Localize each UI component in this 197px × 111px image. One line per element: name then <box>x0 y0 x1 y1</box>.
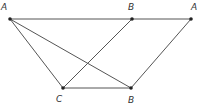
segment-B_bottom-A_prime <box>131 19 191 88</box>
segment-C-B_top <box>63 19 132 88</box>
segment-A-C <box>10 19 63 88</box>
geometry-diagram: ABACB <box>0 0 197 111</box>
diagram-svg: ABACB <box>0 0 197 111</box>
point-B_bottom <box>129 86 133 90</box>
label-A_prime: A <box>190 2 197 12</box>
point-B_top <box>130 17 134 21</box>
label-B_top: B <box>128 2 134 12</box>
point-A <box>8 17 12 21</box>
label-A: A <box>0 2 7 12</box>
label-B_bottom: B <box>128 95 134 105</box>
segment-A-B_bottom <box>10 19 131 88</box>
point-A_prime <box>189 17 193 21</box>
label-C: C <box>56 94 63 104</box>
point-C <box>61 86 65 90</box>
